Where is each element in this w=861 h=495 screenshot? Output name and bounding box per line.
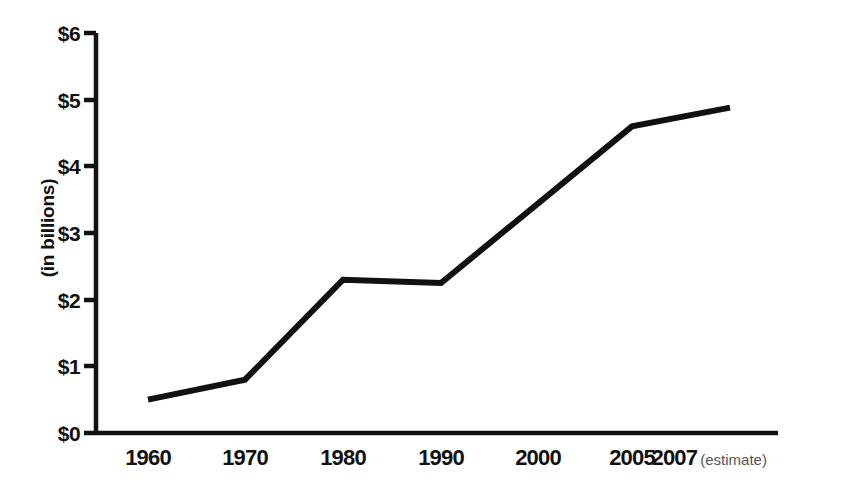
x-tick-label: 2005 [609, 445, 655, 470]
x-tick-label: 1980 [320, 445, 366, 470]
x-tick-2000: 2000 [515, 447, 561, 469]
x-tick-2007: 2007(estimate) [652, 447, 767, 469]
x-tick-note-estimate: (estimate) [700, 451, 767, 468]
x-tick-2005: 2005 [609, 447, 655, 469]
x-tick-label: 1990 [418, 445, 464, 470]
x-tick-label: 2007 [652, 445, 698, 470]
x-tick-label: 1970 [222, 445, 268, 470]
x-tick-1980: 1980 [320, 447, 366, 469]
x-tick-label: 2000 [515, 445, 561, 470]
line-chart: (in billions) $6 $5 $4 $3 $2 $1 $0 [0, 0, 861, 495]
plot-area [0, 0, 861, 495]
x-tick-label: 1960 [125, 445, 171, 470]
x-tick-1960: 1960 [125, 447, 171, 469]
x-tick-1990: 1990 [418, 447, 464, 469]
data-series-line [148, 108, 730, 400]
x-tick-1970: 1970 [222, 447, 268, 469]
